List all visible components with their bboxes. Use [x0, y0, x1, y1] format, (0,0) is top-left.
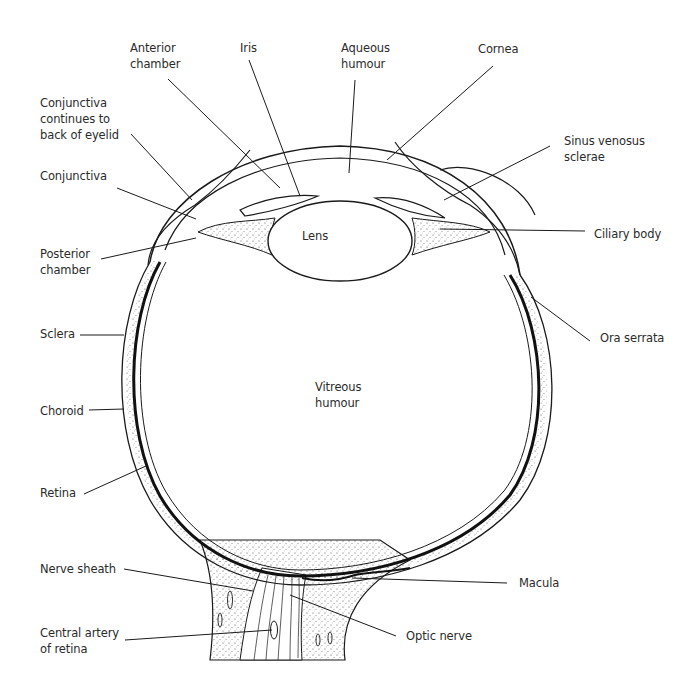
label-ora-serrata: Ora serrata: [600, 330, 664, 346]
label-sinus-venosus-sclerae: Sinus venosus sclerae: [564, 133, 645, 165]
sclera-shape: [122, 262, 552, 585]
label-sclera: Sclera: [40, 326, 75, 342]
label-cornea: Cornea: [478, 41, 518, 57]
leader-line-choroid: [89, 409, 124, 410]
label-choroid: Choroid: [40, 403, 84, 419]
leader-line-conjunctiva-eyelid: [131, 134, 192, 200]
lens-shape: [268, 201, 412, 281]
label-vitreous-humour: Vitreous humour: [315, 379, 361, 411]
label-posterior-chamber: Posterior chamber: [40, 246, 90, 278]
leader-line-sinus-venosus-sclerae: [444, 146, 550, 200]
leader-line-cornea: [387, 66, 493, 160]
label-optic-nerve: Optic nerve: [406, 628, 472, 644]
label-iris: Iris: [240, 40, 257, 56]
label-anterior-chamber: Anterior chamber: [130, 40, 180, 72]
leader-line-anterior-chamber: [168, 79, 280, 188]
eye-diagram: Anterior chamberIrisAqueous humourCornea…: [0, 0, 682, 699]
leader-line-posterior-chamber: [101, 238, 196, 259]
leader-line-retina: [84, 466, 146, 494]
label-retina: Retina: [40, 485, 76, 501]
label-central-artery-of-retina: Central artery of retina: [40, 625, 119, 657]
label-nerve-sheath: Nerve sheath: [40, 561, 116, 577]
leader-line-conjunctiva: [117, 188, 196, 219]
label-macula: Macula: [519, 575, 559, 591]
label-aqueous-humour: Aqueous humour: [341, 40, 390, 72]
leader-line-iris: [249, 60, 300, 196]
label-lens: Lens: [302, 228, 328, 244]
label-conjunctiva-eyelid: Conjunctiva continues to back of eyelid: [40, 95, 119, 143]
label-ciliary-body: Ciliary body: [594, 226, 661, 242]
optic-nerve-shape: [200, 540, 410, 660]
label-conjunctiva: Conjunctiva: [40, 168, 107, 184]
